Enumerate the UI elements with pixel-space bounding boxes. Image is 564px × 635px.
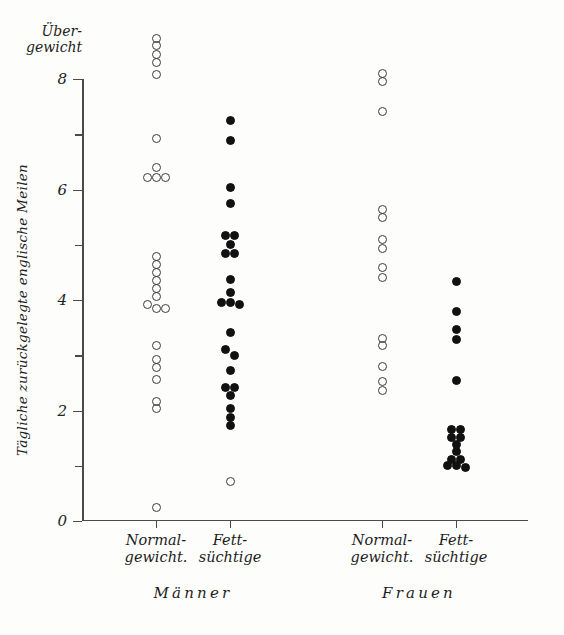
y-axis-line: [82, 79, 84, 521]
data-point-open: [152, 375, 161, 384]
data-point-open: [152, 41, 161, 50]
data-point-open: [378, 77, 387, 86]
x-label-line1: Normal-: [125, 532, 188, 549]
y-tick-minor: [75, 245, 82, 246]
data-point-filled: [226, 136, 235, 145]
data-point-open: [152, 341, 161, 350]
data-point-open: [378, 213, 387, 222]
data-point-open: [143, 300, 152, 309]
data-point-filled: [452, 376, 461, 385]
data-point-open: [378, 244, 387, 253]
x-label-line2: gewicht.: [351, 549, 414, 566]
data-point-filled: [230, 231, 239, 240]
data-point-filled: [226, 288, 235, 297]
y-tick-minor: [75, 134, 82, 135]
data-point-filled: [226, 391, 235, 400]
data-point-open: [161, 304, 170, 313]
data-point-filled: [221, 231, 230, 240]
x-tick: [456, 521, 457, 528]
data-point-filled: [226, 421, 235, 430]
plot-area: 02468: [82, 79, 528, 521]
data-point-filled: [226, 199, 235, 208]
x-axis-line: [82, 520, 528, 522]
data-point-open: [378, 263, 387, 272]
data-point-filled: [443, 461, 452, 470]
data-point-filled: [452, 461, 461, 470]
data-point-filled: [221, 345, 230, 354]
x-tick: [156, 521, 157, 528]
x-axis-column-label: Normal-gewicht.: [351, 532, 414, 567]
data-point-open: [378, 273, 387, 282]
data-point-filled: [221, 249, 230, 258]
y-tick-major: 2: [73, 411, 82, 412]
x-label-line1: Normal-: [351, 532, 414, 549]
data-point-filled: [226, 298, 235, 307]
x-axis-group-label: Frauen: [382, 584, 456, 602]
x-axis-group-label: Männer: [154, 584, 233, 602]
data-point-open: [152, 503, 161, 512]
data-point-filled: [226, 183, 235, 192]
data-point-open: [152, 134, 161, 143]
data-point-filled: [226, 404, 235, 413]
overweight-note-line: Über-: [26, 24, 82, 40]
x-axis-column-label: Fett-süchtige: [425, 532, 488, 567]
data-point-open: [152, 173, 161, 182]
data-point-open: [226, 477, 235, 486]
data-point-open: [152, 304, 161, 313]
data-point-open: [152, 58, 161, 67]
data-point-open: [378, 341, 387, 350]
data-point-filled: [226, 328, 235, 337]
y-axis-title: Tägliche zurückgelegte englische Meilen: [14, 156, 30, 456]
data-point-open: [378, 386, 387, 395]
scatter-plot-figure: Über-gewicht Tägliche zurückgelegte engl…: [0, 0, 564, 635]
data-point-filled: [452, 307, 461, 316]
data-point-open: [161, 173, 170, 182]
data-point-filled: [226, 116, 235, 125]
overweight-note-line: gewicht: [26, 40, 82, 56]
data-point-filled: [217, 298, 226, 307]
data-point-open: [378, 107, 387, 116]
y-tick-label: 0: [57, 512, 67, 530]
data-point-open: [152, 292, 161, 301]
y-tick-major: 6: [73, 190, 82, 191]
data-point-open: [143, 173, 152, 182]
data-point-open: [378, 377, 387, 386]
x-tick: [230, 521, 231, 528]
data-point-filled: [226, 275, 235, 284]
y-tick-major: 0: [73, 521, 82, 522]
y-tick-label: 2: [57, 402, 67, 420]
y-tick-label: 8: [57, 70, 67, 88]
data-point-open: [152, 404, 161, 413]
x-label-line2: süchtige: [425, 549, 488, 566]
data-point-open: [152, 363, 161, 372]
data-point-open: [152, 70, 161, 79]
data-point-filled: [226, 240, 235, 249]
y-tick-major: 8: [73, 79, 82, 80]
data-point-filled: [461, 463, 470, 472]
x-tick: [382, 521, 383, 528]
data-point-filled: [230, 351, 239, 360]
x-label-line2: gewicht.: [125, 549, 188, 566]
y-tick-label: 4: [57, 291, 67, 309]
data-point-filled: [226, 366, 235, 375]
y-tick-label: 6: [57, 181, 67, 199]
y-tick-minor: [75, 355, 82, 356]
data-point-filled: [452, 325, 461, 334]
data-point-filled: [235, 300, 244, 309]
x-label-line2: süchtige: [199, 549, 262, 566]
x-label-line1: Fett-: [425, 532, 488, 549]
overweight-axis-note: Über-gewicht: [26, 24, 82, 55]
x-axis-column-label: Normal-gewicht.: [125, 532, 188, 567]
data-point-open: [378, 362, 387, 371]
data-point-open: [378, 235, 387, 244]
data-point-filled: [230, 249, 239, 258]
y-tick-major: 4: [73, 300, 82, 301]
x-label-line1: Fett-: [199, 532, 262, 549]
data-point-filled: [452, 277, 461, 286]
x-axis-column-label: Fett-süchtige: [199, 532, 262, 567]
data-point-open: [152, 163, 161, 172]
data-point-filled: [452, 335, 461, 344]
y-tick-minor: [75, 466, 82, 467]
